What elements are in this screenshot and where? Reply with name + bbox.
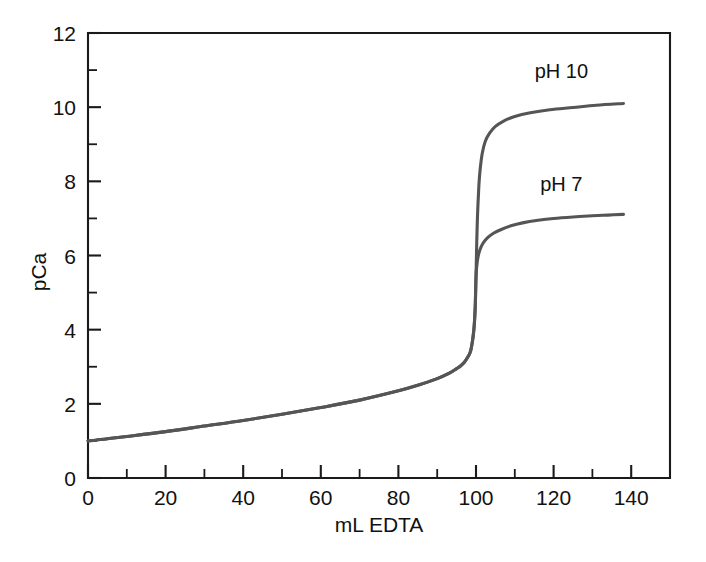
y-tick-label: 10 bbox=[53, 96, 76, 119]
series-label-ph-10: pH 10 bbox=[535, 60, 588, 82]
chart-canvas: 020406080100120140 024681012 pH 10pH 7 m… bbox=[0, 0, 706, 562]
y-axis-tick-labels: 024681012 bbox=[53, 22, 77, 490]
axis-ticks bbox=[88, 33, 670, 478]
y-tick-label: 8 bbox=[64, 170, 76, 193]
x-tick-label: 80 bbox=[387, 486, 410, 509]
series-label-ph-7: pH 7 bbox=[540, 173, 582, 195]
x-tick-label: 100 bbox=[458, 486, 493, 509]
x-tick-label: 0 bbox=[82, 486, 94, 509]
series-inline-labels: pH 10pH 7 bbox=[535, 60, 588, 195]
titration-curve-figure: 020406080100120140 024681012 pH 10pH 7 m… bbox=[0, 0, 706, 562]
x-axis-tick-labels: 020406080100120140 bbox=[82, 486, 649, 509]
x-axis-title: mL EDTA bbox=[335, 513, 424, 536]
y-tick-label: 4 bbox=[64, 319, 76, 342]
series-curve-ph-10 bbox=[88, 103, 623, 440]
y-tick-label: 0 bbox=[64, 467, 76, 490]
x-tick-label: 20 bbox=[154, 486, 177, 509]
data-series-curves bbox=[88, 103, 623, 440]
plot-frame-box bbox=[88, 33, 670, 478]
y-tick-label: 12 bbox=[53, 22, 76, 45]
x-tick-label: 140 bbox=[614, 486, 649, 509]
x-tick-label: 120 bbox=[536, 486, 571, 509]
y-tick-label: 6 bbox=[64, 245, 76, 268]
x-tick-label: 40 bbox=[232, 486, 255, 509]
x-tick-label: 60 bbox=[309, 486, 332, 509]
plot-frame bbox=[88, 33, 670, 478]
y-axis-title: pCa bbox=[27, 252, 50, 291]
y-tick-label: 2 bbox=[64, 393, 76, 416]
series-curve-ph-7 bbox=[88, 214, 623, 441]
